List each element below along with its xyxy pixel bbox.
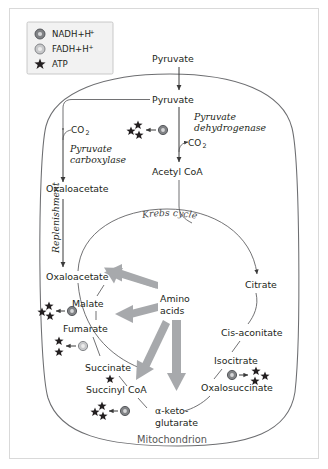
label-alpha-ketoglutarate-line2: glutarate — [155, 417, 198, 428]
label-pyruvate-dehydrogenase-line1: Pyruvate — [193, 111, 236, 122]
arrow-amino-acids-to-alpha-ketoglutarate-head — [167, 373, 186, 391]
line-isocitrate-to-oxalosuccinate — [214, 369, 222, 379]
cofactor-step-malate-to-oxaloacetate — [37, 301, 76, 320]
fadh-circle-icon-inner — [38, 47, 42, 51]
label-pyruvate-outside: Pyruvate — [152, 53, 194, 64]
cofactor-step-alpha-ketoglutarate-to-succinyl-coa — [90, 401, 129, 420]
arrow-amino-acids-to-oxaloacetate-shaft — [119, 269, 158, 289]
line-alpha-kg-to-succinyl-coa — [138, 398, 147, 408]
star-icon — [45, 311, 54, 320]
label-mitochondrion: Mitochondrion — [137, 434, 207, 445]
label-co2-carboxylase: CO — [71, 125, 84, 135]
star-icon — [98, 411, 107, 420]
line-citrate-to-cis-aconitate — [248, 293, 257, 324]
fadh-circle-icon-inner — [81, 344, 85, 348]
label-amino-acids-line1: Amino — [160, 293, 190, 304]
label-pyruvate-dehydrogenase-line2: dehydrogenase — [194, 122, 266, 133]
star-icon — [251, 366, 260, 375]
nadh-circle-icon-inner — [230, 373, 234, 377]
arrow-amino-acids-to-fumarate-shaft — [131, 303, 158, 318]
cofactor-step-succinyl-coa-to-succinate — [105, 374, 114, 383]
co2-input-curve-carboxylase — [63, 130, 71, 140]
label-co2-dehydrogenase: CO — [188, 138, 201, 148]
star-icon — [37, 307, 46, 316]
star-icon — [260, 371, 269, 380]
label-amino-acids-line2: acids — [160, 305, 184, 316]
label-oxaloacetate-cycle: Oxaloacetate — [46, 271, 109, 282]
label-citrate: Citrate — [245, 279, 277, 290]
label-pyruvate-inside: Pyruvate — [152, 94, 194, 105]
star-icon — [133, 120, 142, 129]
nadh-circle-icon-inner — [38, 32, 42, 36]
krebs-cycle-arc — [78, 209, 257, 274]
label-oxalosuccinate: Oxalosuccinate — [201, 382, 273, 393]
star-icon — [134, 130, 143, 139]
label-replenishment: Replenishment — [50, 182, 61, 254]
legend-label-nadh: NADH+H — [52, 29, 91, 39]
legend-label-nadh-superscript: + — [90, 28, 95, 35]
star-icon — [90, 407, 99, 416]
label-co2-dehydrogenase-subscript: 2 — [203, 142, 207, 150]
label-krebs-cycle: Krebs cycle — [140, 207, 199, 221]
label-alpha-ketoglutarate-line1: α-keto- — [155, 405, 188, 416]
line-succinate-to-fumarate — [93, 337, 100, 356]
cofactor-step-succinate-to-fumarate — [54, 336, 87, 356]
label-co2-carboxylase-subscript: 2 — [86, 129, 90, 137]
legend-label-atp: ATP — [52, 59, 68, 69]
line-cis-aconitate-to-isocitrate — [232, 341, 240, 352]
arrow-amino-acids-to-fumarate-head — [115, 305, 133, 323]
label-pyruvate-carboxylase-line1: Pyruvate — [69, 143, 112, 154]
label-acetyl-coa: Acetyl CoA — [152, 166, 203, 177]
star-icon — [105, 374, 114, 383]
cofactor-step-pyruvate-to-acetyl-coa — [126, 120, 167, 139]
nadh-circle-icon-inner — [123, 409, 127, 413]
figure-canvas: NADH+H + FADH+H + ATP Pyruvate Pyruvate … — [0, 0, 328, 469]
krebs-cycle-diagram: NADH+H + FADH+H + ATP Pyruvate Pyruvate … — [0, 0, 328, 469]
star-icon — [54, 347, 63, 356]
label-fumarate: Fumarate — [63, 323, 108, 334]
label-succinyl-coa: Succinyl CoA — [86, 384, 147, 395]
arrow-amino-acids-to-succinyl-coa-shaft — [142, 320, 170, 368]
label-pyruvate-carboxylase-line2: carboxylase — [70, 154, 127, 165]
legend-label-fadh: FADH+H — [52, 44, 89, 54]
arrow-amino-acids-to-alpha-ketoglutarate-shaft — [172, 320, 181, 376]
star-icon — [54, 336, 63, 345]
legend-label-fadh-superscript: + — [89, 43, 94, 50]
nadh-circle-icon-inner — [70, 309, 74, 313]
star-icon — [97, 401, 106, 410]
label-malate: Malate — [72, 298, 104, 309]
label-succinate: Succinate — [85, 362, 131, 373]
line-malate-to-oxaloacetate — [97, 285, 104, 296]
label-cis-aconitate: Cis-aconitate — [221, 327, 283, 338]
co2-output-curve-dehydrogenase — [179, 142, 188, 152]
nadh-circle-icon-inner — [161, 128, 165, 132]
star-icon — [126, 126, 135, 135]
label-isocitrate: Isocitrate — [214, 355, 258, 366]
star-icon — [44, 301, 53, 310]
